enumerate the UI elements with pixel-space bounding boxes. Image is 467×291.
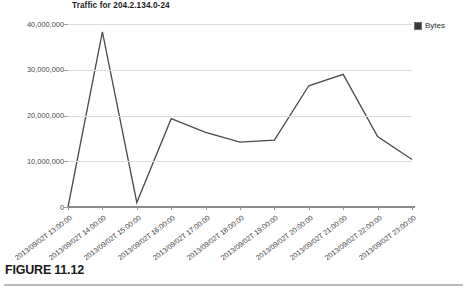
gridline: [68, 161, 412, 162]
y-axis-tick-label: 40,000,000: [6, 20, 64, 29]
x-axis-tick-label: 2013/09/02T 23:00:00: [357, 213, 418, 262]
plot-area: [68, 24, 412, 207]
x-axis-tick-label: 2013/09/02T 13:00:00: [13, 213, 74, 262]
chart-title: Traffic for 204.2.134.0-24: [72, 1, 170, 10]
x-axis-tick-mark: [309, 207, 310, 210]
y-axis-tick-label: 20,000,000: [6, 111, 64, 120]
y-axis-tick-label: 10,000,000: [6, 157, 64, 166]
x-axis-tick-labels: 2013/09/02T 13:00:002013/09/02T 14:00:00…: [0, 207, 467, 265]
x-axis-tick-label: 2013/09/02T 18:00:00: [185, 213, 246, 262]
caption-divider: [4, 284, 463, 286]
chart-legend: Bytes: [414, 21, 445, 30]
gridline: [68, 70, 412, 71]
x-axis-tick-mark: [378, 207, 379, 210]
figure-caption-text: FIGURE 11.12: [5, 263, 84, 277]
x-axis-tick-mark: [68, 207, 69, 210]
x-axis-tick-mark: [171, 207, 172, 210]
x-axis-tick-mark: [412, 207, 413, 210]
x-axis-tick-mark: [240, 207, 241, 210]
x-axis-tick-mark: [343, 207, 344, 210]
chart-container: Traffic for 204.2.134.0-24 010,000,00020…: [0, 0, 467, 262]
x-axis-tick-mark: [206, 207, 207, 210]
legend-swatch-icon: [414, 22, 422, 30]
x-axis-tick-mark: [137, 207, 138, 210]
figure-container: Traffic for 204.2.134.0-24 010,000,00020…: [0, 0, 467, 291]
legend-label-bytes: Bytes: [425, 21, 445, 30]
x-axis-tick-mark: [102, 207, 103, 210]
gridline: [68, 24, 412, 25]
x-axis-tick-mark: [274, 207, 275, 210]
y-axis-tick-label: 30,000,000: [6, 65, 64, 74]
figure-caption-block: FIGURE 11.12: [0, 263, 467, 291]
gridline: [68, 116, 412, 117]
